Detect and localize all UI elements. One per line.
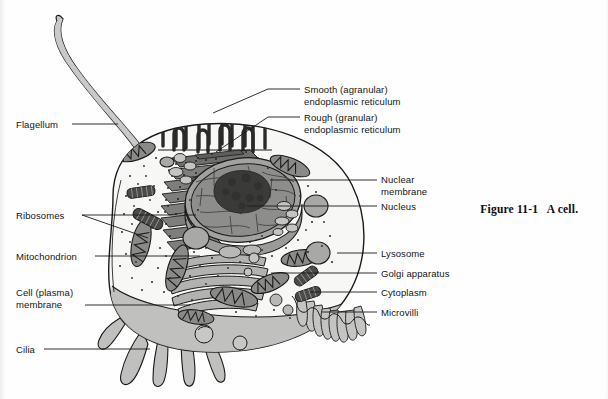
label-flagellum-line-0: Flagellum <box>16 119 58 131</box>
label-nucleus-line-0: Nucleus <box>381 201 416 213</box>
label-nuclear-membrane-line-0: Nuclear <box>381 174 427 186</box>
label-cell-plasma-membrane: Cell (plasma)membrane <box>16 287 73 310</box>
label-cell-plasma-membrane-line-0: Cell (plasma) <box>16 287 73 299</box>
label-golgi-apparatus-line-0: Golgi apparatus <box>381 268 450 280</box>
label-lysosome: Lysosome <box>381 248 425 260</box>
label-nucleus: Nucleus <box>381 201 416 213</box>
label-rough-er-line-1: endoplasmic reticulum <box>304 124 401 136</box>
label-cilia-line-0: Cilia <box>16 344 35 356</box>
label-microvilli: Microvilli <box>381 307 418 319</box>
label-ribosomes-line-0: Ribosomes <box>16 210 64 222</box>
label-cytoplasm: Cytoplasm <box>381 287 427 299</box>
label-smooth-er-line-1: endoplasmic reticulum <box>304 96 401 108</box>
label-smooth-er-line-0: Smooth (agranular) <box>304 84 401 96</box>
figure-caption: Figure 11-1 A cell. <box>468 191 578 227</box>
label-mitochondrion-line-0: Mitochondrion <box>16 251 77 263</box>
label-rough-er-line-0: Rough (granular) <box>304 112 401 124</box>
leader-smooth-er-b <box>213 89 268 113</box>
label-cell-plasma-membrane-line-1: membrane <box>16 299 73 311</box>
label-cilia: Cilia <box>16 344 35 356</box>
figure-title: A cell. <box>547 203 578 215</box>
label-cytoplasm-line-0: Cytoplasm <box>381 287 427 299</box>
label-rough-er: Rough (granular)endoplasmic reticulum <box>304 112 401 135</box>
label-nuclear-membrane: Nuclearmembrane <box>381 174 427 197</box>
label-lysosome-line-0: Lysosome <box>381 248 425 260</box>
figure-number: Figure 11-1 <box>480 203 538 215</box>
label-flagellum: Flagellum <box>16 119 58 131</box>
label-microvilli-line-0: Microvilli <box>381 307 418 319</box>
label-smooth-er: Smooth (agranular)endoplasmic reticulum <box>304 84 401 107</box>
label-golgi-apparatus: Golgi apparatus <box>381 268 450 280</box>
label-ribosomes: Ribosomes <box>16 210 64 222</box>
label-mitochondrion: Mitochondrion <box>16 251 77 263</box>
label-nuclear-membrane-line-1: membrane <box>381 186 427 198</box>
figure-page: FlagellumRibosomesMitochondrionCell (pla… <box>0 0 608 399</box>
